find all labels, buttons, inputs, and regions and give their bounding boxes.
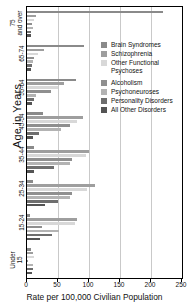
bar [27, 272, 32, 275]
bar [27, 166, 54, 169]
bar [27, 49, 44, 52]
legend-item: Psychoneuroses [101, 88, 187, 96]
bar [27, 234, 52, 237]
legend-swatch-icon [101, 42, 107, 48]
bar [27, 79, 76, 82]
bar [27, 136, 33, 139]
bar [27, 34, 31, 37]
bar-group [27, 7, 182, 41]
bar-group [27, 176, 182, 210]
legend-item: Personality Disorders [101, 97, 187, 105]
bar [27, 154, 86, 157]
bar [27, 230, 59, 233]
bar [27, 226, 42, 229]
x-axis-title: Rate per 100,000 Civilian Population [0, 292, 189, 302]
legend-item: Other Functional Psychoses [101, 59, 187, 74]
bar [27, 60, 33, 63]
legend-item-label: Brain Syndromes [111, 41, 161, 49]
bar [27, 112, 43, 115]
bar [27, 90, 51, 93]
bar [27, 200, 58, 203]
bar [27, 116, 83, 119]
bar [27, 86, 58, 89]
bar [27, 188, 87, 191]
bar [27, 124, 70, 127]
bar [27, 53, 38, 56]
bar [27, 146, 34, 149]
legend-item-label: All Other Disorders [111, 106, 166, 114]
bar [27, 82, 64, 85]
bar [27, 252, 33, 255]
bar [27, 11, 163, 14]
bar-group [27, 210, 182, 244]
legend-swatch-icon [101, 107, 107, 113]
x-tick-label: 250 [175, 281, 186, 288]
y-tick-label: 15-24 [18, 203, 25, 243]
bar-group [27, 143, 182, 177]
bar [27, 57, 34, 60]
bar-group [27, 244, 182, 278]
bar [27, 158, 72, 161]
bar [27, 128, 61, 131]
bar [27, 180, 33, 183]
bar [27, 256, 34, 259]
bar [27, 98, 34, 101]
x-tick-label: 150 [113, 281, 124, 288]
legend-item-label: Schizophrenia [111, 50, 152, 58]
bar [27, 27, 33, 30]
bar [27, 184, 95, 187]
bar [27, 102, 32, 105]
bar [27, 218, 77, 221]
legend-item-label: Alcoholism [111, 79, 142, 87]
legend-swatch-icon [101, 89, 107, 95]
bar [27, 222, 75, 225]
legend-item: Alcoholism [101, 79, 187, 87]
bar [27, 120, 77, 123]
legend-swatch-icon [101, 51, 107, 57]
x-tick-label: 0 [24, 281, 28, 288]
legend-swatch-icon [101, 60, 107, 66]
bar [27, 238, 40, 241]
legend-item: Schizophrenia [101, 50, 187, 58]
bar [27, 19, 34, 22]
bar [27, 214, 30, 217]
x-tick-label: 100 [82, 281, 93, 288]
bar [27, 64, 32, 67]
legend-item: Brain Syndromes [101, 41, 187, 49]
chart-legend: Brain SyndromesSchizophreniaOther Functi… [101, 41, 187, 115]
bar [27, 150, 89, 153]
bar [27, 31, 31, 34]
bar [27, 196, 70, 199]
legend-item-label: Psychoneuroses [111, 88, 159, 96]
bar [27, 248, 31, 251]
legend-item: All Other Disorders [101, 106, 187, 114]
bar [27, 132, 39, 135]
bar [27, 162, 70, 165]
legend-item-label: Other Functional Psychoses [111, 59, 187, 74]
bar [27, 204, 45, 207]
y-tick-label: Under15 [9, 240, 23, 280]
bar [27, 15, 36, 18]
legend-swatch-icon [101, 80, 107, 86]
legend-item-label: Personality Disorders [111, 97, 173, 105]
bar [27, 192, 72, 195]
x-tick-label: 50 [53, 281, 60, 288]
bar [27, 45, 84, 48]
chart-figure: Age in Years 050100150200250 75and over6… [0, 0, 189, 306]
bar [27, 268, 33, 271]
bar [27, 94, 36, 97]
x-tick-label: 200 [144, 281, 155, 288]
bar [27, 264, 33, 267]
legend-swatch-icon [101, 98, 107, 104]
bar [27, 170, 34, 173]
bar [27, 23, 32, 26]
bar [27, 260, 28, 263]
bar [27, 68, 31, 71]
